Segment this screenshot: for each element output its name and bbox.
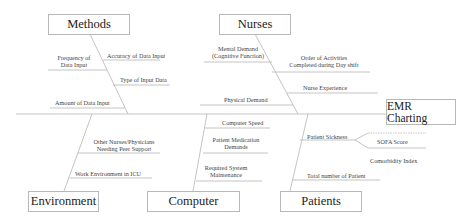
cause-accuracy-of-data-input: Accuracy of Data Input [107,52,165,59]
cause-text: Computer Speed [222,119,263,126]
cause-text: Nurse Experience [303,84,347,91]
cause-mental-demand: Mental Demand (Cognitive Function) [205,45,271,60]
category-label: Environment [31,194,96,209]
category-label: Methods [67,17,111,32]
cause-text-line: Required System [200,164,252,171]
cause-text-line: Maintenance [200,171,252,178]
cause-text-line: Completed during Day shift [282,61,366,68]
cause-text: Physical Demand [224,96,267,103]
cause-physical-demand: Physical Demand [224,96,267,103]
category-label: Patients [301,194,341,209]
cause-nurse-experience: Nurse Experience [303,84,347,91]
cause-text: Total number of Patient [307,172,366,179]
cause-computer-speed: Computer Speed [222,119,263,126]
cause-patient-sickness: Patient Sickness [307,133,347,140]
cause-order-of-activities: Order of Activities Completed during Day… [282,54,366,69]
cause-total-number-of-patient: Total number of Patient [307,172,366,179]
cause-required-system-maintenance: Required System Maintenance [200,164,252,179]
cause-text: Type of Input Data [120,76,167,83]
effect-box-emr-charting: EMR Charting [386,99,456,125]
category-box-environment: Environment [28,191,99,212]
cause-amount-of-data-input: Amount of Data Input [55,99,110,106]
category-box-methods: Methods [48,14,130,35]
cause-work-environment-icu: Work Environment in ICU [75,170,141,177]
cause-text-line: Demands [208,143,264,150]
cause-text: Work Environment in ICU [75,170,141,177]
cause-text-line: Patient Medication [208,136,264,143]
cause-text-line: Mental Demand [205,45,271,52]
cause-type-of-input-data: Type of Input Data [120,76,167,83]
cause-text: Amount of Data Input [55,99,110,106]
cause-text: SOFA Score [377,138,408,145]
cause-text-line: Needing Peer Support [88,145,160,152]
cause-text: Patient Sickness [307,133,347,140]
cause-text: Comorbidity Index [370,157,417,164]
category-box-nurses: Nurses [219,14,291,35]
cause-text-line: Frequency of [52,54,96,61]
cause-text-line: Data Input [52,61,96,68]
cause-patient-medication-demands: Patient Medication Demands [208,136,264,151]
cause-text-line: Other Nurses/Physicians [88,138,160,145]
category-box-patients: Patients [280,191,362,212]
cause-other-nurses-physicians: Other Nurses/Physicians Needing Peer Sup… [88,138,160,153]
cause-text-line: (Cognitive Function) [205,52,271,59]
cause-text: Accuracy of Data Input [107,52,165,59]
category-box-computer: Computer [147,191,240,212]
effect-label: EMR Charting [387,100,455,124]
category-label: Nurses [238,17,273,32]
cause-frequency-of-data-input: Frequency of Data Input [52,54,96,69]
cause-sofa-score: SOFA Score [377,138,408,145]
category-label: Computer [169,194,219,209]
cause-comorbidity-index: Comorbidity Index [370,157,417,164]
cause-text-line: Order of Activities [282,54,366,61]
